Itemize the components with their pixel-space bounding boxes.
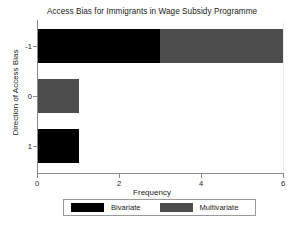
x-tick-label-0: 0 (27, 179, 47, 188)
x-tick-mark-4 (201, 174, 202, 178)
gridline-x-6 (283, 22, 284, 173)
chart-title: Access Bias for Immigrants in Wage Subsi… (0, 7, 304, 16)
chart-legend: Bivariate Multivariate (63, 199, 256, 216)
x-tick-mark-0 (37, 174, 38, 178)
y-tick-mark-1 (33, 146, 37, 147)
legend-entry-bivariate[interactable]: Bivariate (64, 200, 141, 215)
legend-swatch-bivariate (71, 203, 104, 212)
x-tick-mark-2 (119, 174, 120, 178)
chart-figure: Access Bias for Immigrants in Wage Subsi… (0, 0, 304, 229)
y-tick-mark-0 (33, 96, 37, 97)
y-tick-mark-neg1 (33, 46, 37, 47)
bar-multivariate-0 (38, 79, 79, 113)
y-axis-title: Direction of Access Bias (11, 23, 20, 163)
x-axis-spine (37, 173, 284, 174)
x-tick-label-4: 4 (191, 179, 211, 188)
bar-multivariate-neg1 (160, 29, 283, 63)
legend-label-multivariate: Multivariate (200, 203, 239, 212)
legend-swatch-multivariate (160, 203, 193, 212)
x-axis-title: Frequency (0, 188, 304, 197)
x-tick-label-2: 2 (109, 179, 129, 188)
x-tick-label-6: 6 (273, 179, 293, 188)
bar-bivariate-neg1 (38, 29, 160, 63)
legend-label-bivariate: Bivariate (111, 203, 141, 212)
x-tick-mark-6 (283, 174, 284, 178)
bar-bivariate-1 (38, 129, 79, 163)
legend-entry-multivariate[interactable]: Multivariate (153, 200, 239, 215)
